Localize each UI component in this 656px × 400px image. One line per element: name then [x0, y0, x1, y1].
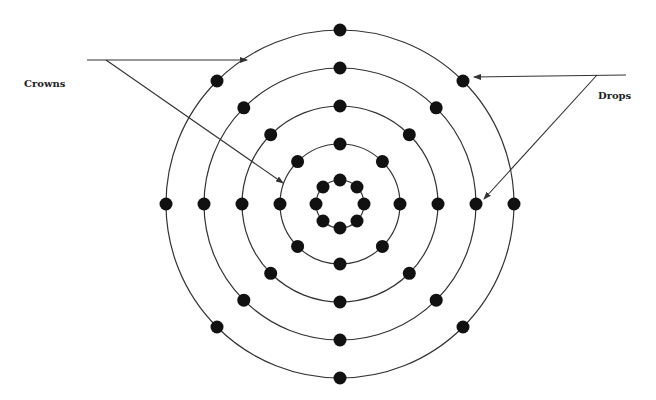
ring-2-dot: [291, 155, 304, 168]
drops-arrow-1: [474, 75, 626, 77]
ring-2-dot: [334, 258, 347, 271]
ring-1-dot: [351, 181, 364, 194]
ring-3-dot: [403, 128, 416, 141]
dots-group: [160, 24, 521, 385]
ring-4-dot: [334, 334, 347, 347]
ring-5-dot: [211, 75, 224, 88]
ring-4-dot: [198, 198, 211, 211]
ring-2-dot: [394, 198, 407, 211]
ring-3-dot: [334, 100, 347, 113]
ring-5-dot: [508, 198, 521, 211]
ring-2-dot: [376, 155, 389, 168]
ring-3-dot: [403, 267, 416, 280]
ring-4-dot: [237, 101, 250, 114]
ring-1-dot: [317, 181, 330, 194]
ring-2-dot: [376, 240, 389, 253]
ring-1-dot: [317, 215, 330, 228]
ring-1-dot: [334, 174, 347, 187]
ring-5-dot: [457, 75, 470, 88]
ring-3-dot: [264, 267, 277, 280]
ring-5-dot: [334, 24, 347, 37]
ring-5-dot: [211, 321, 224, 334]
ring-1-dot: [310, 198, 323, 211]
ring-4-dot: [430, 294, 443, 307]
ring-5-dot: [160, 198, 173, 211]
ring-3-dot: [264, 128, 277, 141]
ring-2-dot: [274, 198, 287, 211]
ring-4-dot: [237, 294, 250, 307]
drops-label: Drops: [598, 90, 631, 101]
concentric-rings-diagram: [0, 0, 656, 400]
ring-1-dot: [334, 222, 347, 235]
ring-5-dot: [334, 372, 347, 385]
ring-2-dot: [291, 240, 304, 253]
ring-2-dot: [334, 138, 347, 151]
crowns-label: Crowns: [24, 78, 65, 89]
ring-3-dot: [432, 198, 445, 211]
ring-1-dot: [351, 215, 364, 228]
ring-4-dot: [334, 62, 347, 75]
ring-3-dot: [334, 296, 347, 309]
ring-1-dot: [358, 198, 371, 211]
ring-5-dot: [457, 321, 470, 334]
ring-4-dot: [430, 101, 443, 114]
ring-4-dot: [470, 198, 483, 211]
crowns-arrow-2: [106, 60, 283, 183]
ring-3-dot: [236, 198, 249, 211]
